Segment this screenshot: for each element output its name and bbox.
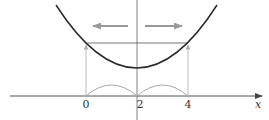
parabola-curve [56,5,217,68]
tick-label-4: 4 [185,98,192,111]
tick-label-2: 2 [137,98,144,111]
tick-label-0: 0 [83,98,90,111]
parabola-diagram: 0 2 4 x [0,0,269,120]
distance-arc-left [86,85,137,96]
diagram-canvas: 0 2 4 x [0,0,269,120]
distance-arc-right [137,85,188,96]
x-axis-label: x [255,98,262,111]
